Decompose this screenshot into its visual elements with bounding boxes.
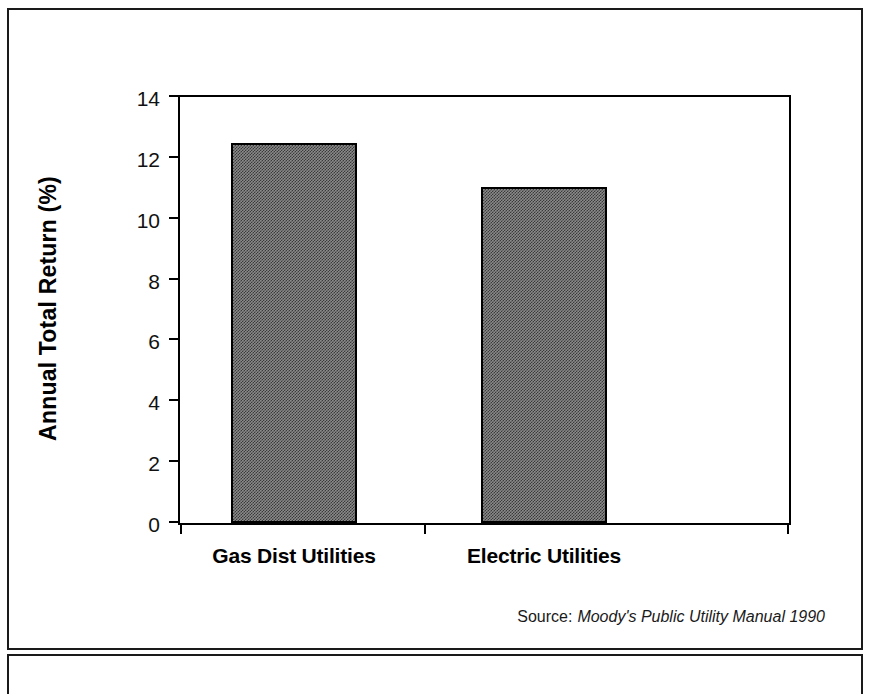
bar-electric-utilities bbox=[481, 187, 607, 523]
y-axis-title: Annual Total Return (%) bbox=[31, 95, 65, 521]
y-tick-8: 8 bbox=[169, 278, 180, 280]
y-tick-label-10: 10 bbox=[137, 209, 160, 230]
y-tick-label-12: 12 bbox=[137, 148, 160, 169]
source-prefix: Source: bbox=[517, 608, 572, 625]
x-tick-center bbox=[424, 523, 426, 534]
bar-chart: Annual Total Return (%) 14 12 10 8 6 4 bbox=[9, 10, 865, 652]
y-tick-2: 2 bbox=[169, 460, 180, 462]
bar-gas-dist-utilities bbox=[231, 143, 357, 523]
figure-lower-frame bbox=[7, 654, 863, 694]
y-tick-label-6: 6 bbox=[148, 331, 160, 352]
y-tick-14: 14 bbox=[169, 95, 180, 97]
y-tick-label-2: 2 bbox=[148, 453, 160, 474]
source-title: Moody's Public Utility Manual 1990 bbox=[577, 608, 825, 625]
figure-outer-frame: Annual Total Return (%) 14 12 10 8 6 4 bbox=[7, 8, 863, 650]
y-tick-label-4: 4 bbox=[148, 392, 160, 413]
x-category-label-gas-dist-utilities: Gas Dist Utilities bbox=[212, 544, 375, 568]
y-tick-4: 4 bbox=[169, 399, 180, 401]
x-tick-right bbox=[787, 523, 789, 534]
y-tick-10: 10 bbox=[169, 217, 180, 219]
y-tick-label-14: 14 bbox=[137, 88, 160, 109]
y-tick-0: 0 bbox=[169, 521, 180, 523]
y-tick-6: 6 bbox=[169, 338, 180, 340]
x-tick-left bbox=[180, 523, 182, 534]
y-tick-label-0: 0 bbox=[148, 514, 160, 535]
x-category-label-electric-utilities: Electric Utilities bbox=[467, 544, 621, 568]
plot-area: 14 12 10 8 6 4 2 0 bbox=[178, 95, 791, 525]
source-note: Source:Moody's Public Utility Manual 199… bbox=[517, 608, 825, 626]
y-tick-12: 12 bbox=[169, 156, 180, 158]
y-axis-title-text: Annual Total Return (%) bbox=[35, 176, 62, 441]
y-tick-label-8: 8 bbox=[148, 270, 160, 291]
